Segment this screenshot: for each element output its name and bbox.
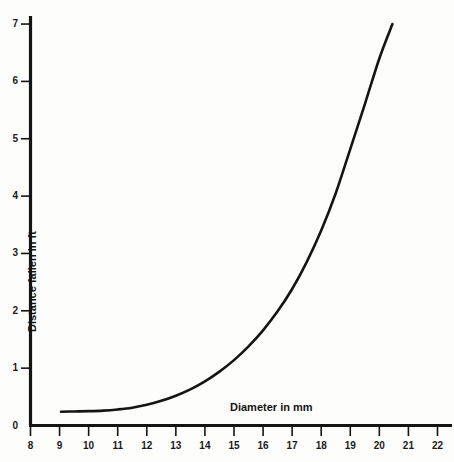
y-tick-label: 6 [4, 76, 18, 86]
x-tick-label: 16 [257, 441, 268, 451]
x-tick-label: 13 [170, 441, 181, 451]
y-tick-label: 5 [4, 134, 18, 144]
x-tick-label: 11 [112, 441, 123, 451]
data-series-group [61, 24, 392, 412]
x-axis-ticks [31, 427, 438, 436]
y-tick-label: 1 [4, 363, 18, 373]
x-tick-label: 22 [432, 441, 443, 451]
y-tick-label: 3 [4, 248, 18, 258]
y-axis-title: Distance fallen in ft [27, 231, 38, 332]
y-tick-label: 0 [4, 421, 18, 431]
y-tick-label: 7 [4, 19, 18, 29]
x-tick-label: 9 [57, 441, 63, 451]
chart-figure: 8910111213141516171819202122 01234567 Di… [0, 0, 454, 462]
y-tick-label: 2 [4, 306, 18, 316]
x-tick-label: 20 [374, 441, 385, 451]
x-tick-label: 14 [199, 441, 210, 451]
x-axis-title: Diameter in mm [230, 402, 313, 413]
x-tick-label: 12 [141, 441, 152, 451]
x-tick-label: 21 [403, 441, 414, 451]
plot-canvas [0, 0, 454, 462]
x-tick-label: 19 [345, 441, 356, 451]
y-tick-label: 4 [4, 191, 18, 201]
x-tick-label: 18 [316, 441, 327, 451]
data-series-line [61, 24, 392, 412]
x-tick-label: 8 [28, 441, 34, 451]
x-tick-label: 10 [83, 441, 94, 451]
x-tick-label: 17 [287, 441, 298, 451]
x-tick-label: 15 [228, 441, 239, 451]
